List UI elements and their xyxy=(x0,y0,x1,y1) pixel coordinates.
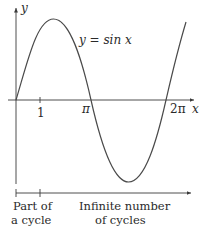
curve-label: y = sin x xyxy=(78,33,132,47)
tick-label-one: 1 xyxy=(37,106,45,120)
tick-label-pi: π xyxy=(81,102,91,116)
part-of-cycle-line1: Part of xyxy=(13,199,53,213)
sine-diagram: y x y = sin x 1 π 2π Part of a cycle Inf… xyxy=(0,0,208,232)
tick-label-two-pi: 2π xyxy=(170,102,186,116)
infinite-cycles-line1: Infinite number xyxy=(79,199,171,213)
x-axis-label: x xyxy=(192,102,199,116)
infinite-cycles-line2: of cycles xyxy=(95,213,146,227)
y-axis-label: y xyxy=(20,1,28,15)
part-of-cycle-line2: a cycle xyxy=(11,213,52,227)
